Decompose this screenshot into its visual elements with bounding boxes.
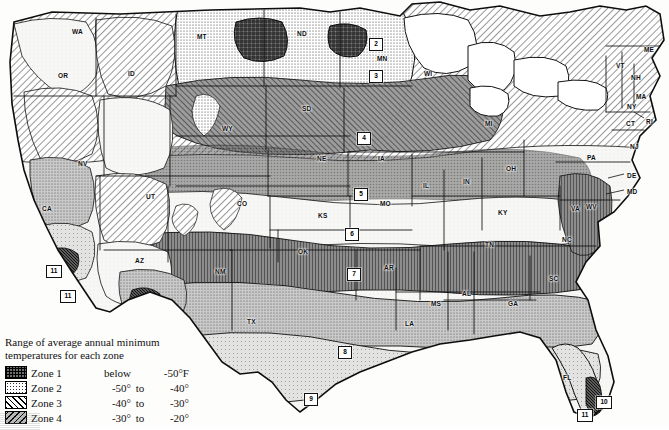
zone-marker-4[interactable]: 4 <box>357 132 371 145</box>
legend-swatch-diagonal-hatch <box>5 396 27 409</box>
state-label-id: ID <box>128 70 135 77</box>
state-label-wy: WY <box>222 125 233 132</box>
state-label-vt: VT <box>616 62 625 69</box>
zone-marker-8[interactable]: 8 <box>338 346 352 359</box>
state-label-tn: TN <box>485 241 494 248</box>
zone-marker-2[interactable]: 2 <box>369 38 383 51</box>
legend-range-low: -50° <box>89 380 131 395</box>
state-label-nv: NV <box>78 160 87 167</box>
legend-swatch-cell <box>5 380 31 395</box>
legend-zone-label: Zone 2 <box>31 380 89 395</box>
legend-range-high: -20° <box>149 410 189 425</box>
legend-row: Zone 3-40°to-30° <box>5 395 189 410</box>
state-label-va: VA <box>571 205 580 212</box>
scan-edge-artifact <box>0 412 40 430</box>
zone-marker-7[interactable]: 7 <box>347 268 361 281</box>
state-label-mn: MN <box>377 55 388 62</box>
zone-marker-3[interactable]: 3 <box>369 70 383 83</box>
legend-swatch-cell <box>5 365 31 380</box>
zone-marker-9[interactable]: 9 <box>304 393 318 406</box>
state-label-ri: RI <box>646 118 653 125</box>
state-label-ca: CA <box>42 205 52 212</box>
state-label-ky: KY <box>498 209 507 216</box>
state-label-ar: AR <box>384 264 394 271</box>
legend-range-connector: to <box>131 395 149 410</box>
state-label-ct: CT <box>626 120 635 127</box>
state-label-ok: OK <box>298 248 308 255</box>
legend-range-high: -50°F <box>149 365 189 380</box>
zone-marker-6[interactable]: 6 <box>345 228 359 241</box>
state-label-nm: NM <box>215 268 226 275</box>
zone-marker-11[interactable]: 11 <box>60 290 76 303</box>
state-label-ne: NE <box>317 155 326 162</box>
state-label-ia: IA <box>378 155 385 162</box>
state-label-nd: ND <box>297 30 307 37</box>
legend-range-connector: to <box>131 380 149 395</box>
state-label-or: OR <box>58 72 68 79</box>
legend-range-high: -30° <box>149 395 189 410</box>
legend-title-line-2: temperatures for each zone <box>5 349 255 362</box>
legend-swatch-crosshatch-grid <box>5 366 27 379</box>
state-label-az: AZ <box>135 257 144 264</box>
legend-range-low: -30° <box>89 410 131 425</box>
state-label-pa: PA <box>587 154 596 161</box>
state-label-ny: NY <box>627 103 636 110</box>
legend-range-low: -40° <box>89 395 131 410</box>
state-label-mi: MI <box>485 120 493 127</box>
legend-range-high: -40° <box>149 380 189 395</box>
state-label-oh: OH <box>506 165 516 172</box>
legend-swatch-stipple-dots <box>5 381 27 394</box>
state-label-fl: FL <box>563 374 571 381</box>
legend-row: Zone 2-50°to-40° <box>5 380 189 395</box>
state-label-wi: WI <box>424 70 432 77</box>
legend-zone-label: Zone 3 <box>31 395 89 410</box>
map-legend: Range of average annual minimum temperat… <box>5 336 255 425</box>
state-label-tx: TX <box>247 318 256 325</box>
state-label-ks: KS <box>318 212 327 219</box>
legend-range-low: below <box>89 365 131 380</box>
state-label-ga: GA <box>508 300 518 307</box>
state-label-mo: MO <box>380 200 391 207</box>
legend-swatch-cell <box>5 395 31 410</box>
state-label-de: DE <box>627 172 636 179</box>
state-label-mt: MT <box>197 33 207 40</box>
state-label-sc: SC <box>549 275 558 282</box>
zone-marker-5[interactable]: 5 <box>354 188 368 201</box>
legend-title: Range of average annual minimum temperat… <box>5 336 255 362</box>
legend-range-connector <box>131 365 149 380</box>
state-label-la: LA <box>405 320 414 327</box>
state-label-ms: MS <box>431 300 441 307</box>
state-label-co: CO <box>237 200 247 207</box>
state-label-il: IL <box>423 182 429 189</box>
state-label-me: ME <box>644 46 654 53</box>
state-label-md: MD <box>627 188 638 195</box>
legend-range-connector: to <box>131 410 149 425</box>
state-label-nc: NC <box>562 236 572 243</box>
legend-row: Zone 1below-50°F <box>5 365 189 380</box>
zone-marker-10[interactable]: 10 <box>596 396 612 409</box>
state-label-wa: WA <box>72 28 83 35</box>
state-label-in: IN <box>463 178 470 185</box>
zone-marker-11[interactable]: 11 <box>46 265 62 278</box>
state-label-nj: NJ <box>630 143 639 150</box>
zone-marker-11[interactable]: 11 <box>577 409 593 422</box>
state-label-nh: NH <box>631 74 641 81</box>
state-label-ut: UT <box>146 193 155 200</box>
legend-title-line-1: Range of average annual minimum <box>5 336 255 349</box>
state-label-ma: MA <box>636 93 647 100</box>
legend-zone-label: Zone 1 <box>31 365 89 380</box>
state-label-al: AL <box>462 290 471 297</box>
state-label-wv: WV <box>586 203 597 210</box>
state-label-sd: SD <box>302 105 311 112</box>
